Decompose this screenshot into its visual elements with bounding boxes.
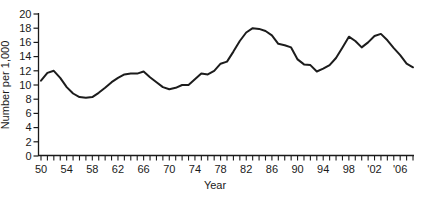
x-tick-label: 86 [266, 163, 278, 175]
x-tick-label: 58 [86, 163, 98, 175]
y-axis-title: Number per 1,000 [0, 41, 11, 130]
x-tick-label: 70 [163, 163, 175, 175]
x-tick-label: 50 [35, 163, 47, 175]
x-tick-label: 94 [317, 163, 329, 175]
tick-labels-layer: 0246810121416182050545862667074788286909… [19, 8, 407, 175]
x-tick-label: 62 [112, 163, 124, 175]
y-tick-label: 12 [19, 65, 31, 77]
x-axis-title: Year [204, 179, 227, 191]
y-tick-label: 4 [25, 121, 31, 133]
x-tick-label: 90 [291, 163, 303, 175]
data-line [41, 28, 413, 98]
x-tick-label: 66 [137, 163, 149, 175]
y-tick-label: 6 [25, 107, 31, 119]
x-tick-label: 54 [61, 163, 73, 175]
x-tick-label: 98 [343, 163, 355, 175]
y-tick-label: 8 [25, 93, 31, 105]
y-tick-label: 16 [19, 36, 31, 48]
x-tick-label: '06 [393, 163, 407, 175]
chart-canvas: 0246810121416182050545862667074788286909… [0, 0, 427, 198]
line-chart: 0246810121416182050545862667074788286909… [0, 0, 427, 198]
x-tick-label: 78 [214, 163, 226, 175]
x-tick-label: 82 [240, 163, 252, 175]
y-tick-label: 14 [19, 50, 31, 62]
x-tick-label: 74 [189, 163, 201, 175]
y-tick-label: 10 [19, 79, 31, 91]
y-tick-label: 0 [25, 150, 31, 162]
y-tick-label: 20 [19, 8, 31, 20]
ticks-layer [34, 14, 414, 161]
axes-layer [39, 13, 415, 156]
y-tick-label: 18 [19, 22, 31, 34]
series-layer [41, 28, 413, 98]
y-tick-label: 2 [25, 136, 31, 148]
x-tick-label: '02 [367, 163, 381, 175]
